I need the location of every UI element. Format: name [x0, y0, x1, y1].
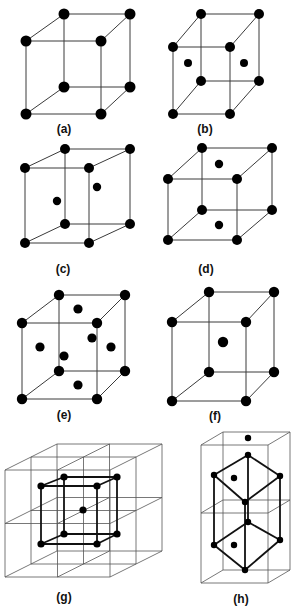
- corner-atom: [232, 174, 242, 184]
- cube-edge: [22, 371, 59, 399]
- panel-label-h: (h): [233, 592, 248, 606]
- panel-label-b: (b): [197, 122, 212, 136]
- box-line: [268, 500, 290, 513]
- cube-edge: [173, 81, 201, 114]
- corner-atom: [120, 366, 130, 376]
- corner-atom: [196, 76, 206, 86]
- hex-edge: [214, 475, 245, 502]
- corner-atom: [54, 290, 64, 300]
- panel-h-hexagonal-cell: [201, 432, 290, 583]
- interior-atom: [53, 197, 61, 205]
- corner-atom: [232, 235, 242, 245]
- corner-atom: [204, 367, 214, 377]
- cube-edge: [237, 148, 272, 179]
- interior-atom: [215, 160, 223, 168]
- interior-atom: [218, 337, 228, 347]
- corner-atom: [113, 473, 120, 480]
- panel-label-d: (d): [198, 262, 213, 276]
- panel-g-bcc-lattice: [5, 444, 162, 577]
- hex-edge: [248, 455, 280, 476]
- unit-cell-b: [168, 9, 264, 119]
- corner-atom: [225, 42, 235, 52]
- corner-atom: [20, 238, 30, 248]
- corner-atom: [125, 82, 136, 93]
- corner-atom: [20, 163, 30, 173]
- cube-edge: [101, 87, 130, 114]
- cube-edge: [89, 149, 130, 168]
- unit-cell-d: [163, 143, 277, 245]
- corner-atom: [225, 109, 235, 119]
- corner-atom: [60, 473, 67, 480]
- corner-atom: [241, 396, 251, 406]
- corner-atom: [96, 36, 107, 47]
- cube-edge: [173, 14, 201, 47]
- interior-atom: [215, 221, 223, 229]
- cube-edge: [22, 295, 59, 323]
- cube-edge: [25, 149, 65, 168]
- lattice-atom: [277, 473, 283, 479]
- corner-atom: [267, 143, 277, 153]
- box-line: [268, 432, 290, 445]
- corner-atom: [267, 205, 277, 215]
- corner-atom: [93, 540, 100, 547]
- bcc-edge: [41, 477, 64, 486]
- corner-atom: [17, 318, 27, 328]
- corner-atom: [269, 287, 279, 297]
- corner-atom: [21, 36, 32, 47]
- hex-edge: [214, 455, 248, 475]
- cube-edge: [168, 210, 202, 240]
- corner-atom: [84, 238, 94, 248]
- unit-cell-c: [20, 144, 135, 248]
- interior-atom: [93, 183, 101, 191]
- corner-atom: [168, 42, 178, 52]
- interior-atom: [231, 542, 237, 548]
- box-line: [201, 432, 223, 445]
- corner-atom: [254, 9, 264, 19]
- corner-atom: [254, 76, 264, 86]
- cubic-unit-cells: [17, 9, 279, 407]
- cube-edge: [26, 87, 64, 114]
- corner-atom: [113, 530, 120, 537]
- cube-edge: [97, 371, 125, 399]
- interior-atom: [240, 59, 248, 67]
- hex-edge: [245, 540, 280, 570]
- unit-cell-a: [21, 9, 136, 120]
- lattice-atom: [211, 472, 217, 478]
- interior-atom: [73, 380, 82, 389]
- corner-atom: [92, 318, 102, 328]
- bcc-edge: [41, 534, 64, 544]
- cube-edge: [246, 292, 274, 322]
- unit-cell-e: [17, 290, 130, 404]
- cube-edge: [230, 14, 259, 47]
- interior-atom: [106, 342, 115, 351]
- corner-atom: [163, 235, 173, 245]
- lattice-atom: [245, 519, 251, 525]
- corner-atom: [54, 366, 64, 376]
- corner-atom: [96, 109, 107, 120]
- cube-edge: [172, 292, 209, 322]
- box-line: [201, 570, 223, 583]
- interior-atom: [35, 342, 44, 351]
- corner-atom: [120, 290, 130, 300]
- corner-atom: [92, 394, 102, 404]
- corner-atom: [125, 9, 136, 20]
- hex-edge: [248, 522, 280, 540]
- box-line: [201, 500, 223, 513]
- cube-edge: [101, 14, 130, 41]
- interior-atom: [59, 351, 68, 360]
- corner-atom: [197, 205, 207, 215]
- corner-atom: [60, 219, 70, 229]
- corner-atom: [84, 163, 94, 173]
- cube-edge: [97, 295, 125, 323]
- hex-edge: [214, 522, 248, 545]
- crystal-structures-figure: [0, 0, 302, 608]
- lattice-atom: [211, 542, 217, 548]
- corner-atom: [167, 396, 177, 406]
- panel-label-f: (f): [209, 409, 221, 423]
- corner-atom: [125, 219, 135, 229]
- cube-edge: [25, 224, 65, 243]
- panel-label-c: (c): [56, 262, 71, 276]
- box-line: [268, 570, 290, 583]
- corner-atom: [93, 482, 100, 489]
- corner-atom: [167, 317, 177, 327]
